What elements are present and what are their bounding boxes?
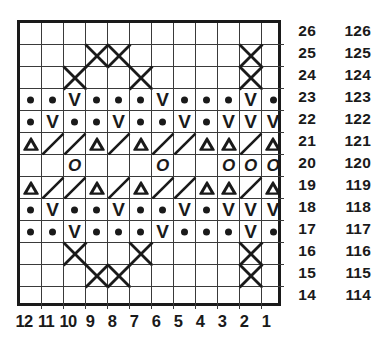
grid-cell-r19-c5	[174, 177, 196, 199]
row-number-pair: 25125	[286, 42, 381, 64]
cell-symbol-dot	[86, 221, 107, 242]
grid-cell-r14-c8	[108, 287, 130, 309]
purl-dot-icon	[49, 229, 56, 236]
cell-symbol-vee: V	[174, 111, 195, 132]
cell-symbol-dot	[262, 89, 284, 110]
yarn-over-o-icon: O	[266, 157, 279, 174]
grid-cell-r20-c3: O	[218, 155, 240, 177]
grid-cell-r14-c7	[130, 287, 152, 309]
grid-cell-r19-c9	[86, 177, 108, 199]
grid-cell-r25-c10	[64, 45, 86, 67]
cell-symbol-triangle	[20, 133, 41, 154]
row-number-pair: 15115	[286, 262, 381, 284]
cell-symbol-x	[64, 243, 85, 264]
grid-cell-r21-c3	[218, 133, 240, 155]
grid-cell-r21-c2	[240, 133, 262, 155]
row-number-primary: 26	[286, 22, 316, 40]
row-number-pair: 24124	[286, 64, 381, 86]
grid-cell-r23-c7	[130, 89, 152, 111]
grid-cell-r16-c3	[218, 243, 240, 265]
purl-dot-icon	[71, 207, 78, 214]
right-slant-line-icon	[174, 177, 196, 199]
row-number-secondary: 123	[325, 88, 371, 106]
grid-cell-r26-c1	[262, 23, 284, 45]
grid-cell-r24-c9	[86, 67, 108, 89]
slip-stitch-v-icon: V	[244, 90, 257, 109]
decrease-triangle-icon	[221, 137, 237, 151]
grid-cell-r15-c1	[262, 265, 284, 287]
cell-symbol-slash	[174, 133, 195, 154]
row-number-secondary: 124	[325, 66, 371, 84]
decrease-triangle-icon	[265, 181, 281, 195]
grid-cell-r25-c12	[20, 45, 42, 67]
grid-cell-r21-c5	[174, 133, 196, 155]
cell-symbol-x	[240, 67, 261, 88]
purl-dot-icon	[181, 229, 188, 236]
purl-dot-icon	[115, 97, 122, 104]
cell-symbol-x	[130, 243, 151, 264]
grid-cell-r17-c12	[20, 221, 42, 243]
grid-cell-r19-c1	[262, 177, 284, 199]
purl-dot-icon	[203, 229, 210, 236]
cell-symbol-dot	[218, 89, 239, 110]
decrease-triangle-icon	[199, 137, 215, 151]
grid-cell-r19-c2	[240, 177, 262, 199]
row-number-primary: 15	[286, 264, 316, 282]
grid-cell-r22-c3: V	[218, 111, 240, 133]
grid-cell-r26-c5	[174, 23, 196, 45]
grid-cell-r17-c6: V	[152, 221, 174, 243]
decrease-triangle-icon	[23, 137, 39, 151]
row-number-primary: 23	[286, 88, 316, 106]
yarn-over-o-icon: O	[156, 157, 169, 174]
grid-cell-r16-c8	[108, 243, 130, 265]
grid-cell-r19-c12	[20, 177, 42, 199]
cell-symbol-triangle	[262, 133, 284, 154]
cell-symbol-slash	[152, 133, 173, 154]
grid-cell-r22-c4	[196, 111, 218, 133]
grid-cell-r16-c10	[64, 243, 86, 265]
cell-symbol-x	[240, 265, 261, 286]
cable-cross-x-icon	[130, 67, 152, 89]
grid-cell-r14-c6	[152, 287, 174, 309]
cell-symbol-dot	[86, 89, 107, 110]
cell-symbol-triangle	[218, 177, 239, 198]
cell-symbol-dot	[262, 221, 284, 242]
grid-cell-r21-c12	[20, 133, 42, 155]
grid-cell-r23-c3	[218, 89, 240, 111]
grid-cell-r17-c8	[108, 221, 130, 243]
grid-cell-r24-c2	[240, 67, 262, 89]
cell-symbol-dot	[174, 89, 195, 110]
column-number-7: 7	[123, 312, 145, 331]
right-slant-line-icon	[240, 133, 262, 155]
row-number-pair: 18118	[286, 196, 381, 218]
grid-cell-r20-c6: O	[152, 155, 174, 177]
grid-cell-r17-c4	[196, 221, 218, 243]
grid-cell-r22-c6	[152, 111, 174, 133]
grid-cell-r14-c11	[42, 287, 64, 309]
cell-symbol-vee: V	[240, 199, 261, 220]
grid-cell-r23-c12	[20, 89, 42, 111]
grid-cell-r24-c10	[64, 67, 86, 89]
cell-symbol-o: O	[240, 155, 261, 176]
row-number-columns: 2612625125241242312322122211212012019119…	[286, 20, 381, 306]
grid-cell-r20-c12	[20, 155, 42, 177]
cell-symbol-vee: V	[108, 199, 129, 220]
slip-stitch-v-icon: V	[68, 90, 81, 109]
column-number-11: 11	[35, 312, 57, 331]
slip-stitch-v-icon: V	[156, 222, 169, 241]
grid-cell-r14-c4	[196, 287, 218, 309]
grid-cell-r19-c4	[196, 177, 218, 199]
cell-symbol-x	[108, 45, 129, 66]
right-slant-line-icon	[152, 133, 174, 155]
cell-symbol-vee: V	[218, 199, 239, 220]
grid-cell-r19-c7	[130, 177, 152, 199]
grid-cell-r22-c7	[130, 111, 152, 133]
grid-cell-r22-c11: V	[42, 111, 64, 133]
row-number-secondary: 120	[325, 154, 371, 172]
purl-dot-icon	[270, 229, 277, 236]
decrease-triangle-icon	[23, 181, 39, 195]
grid-cell-r15-c7	[130, 265, 152, 287]
cable-cross-x-icon	[108, 265, 130, 287]
cell-symbol-x	[86, 45, 107, 66]
grid-cell-r25-c1	[262, 45, 284, 67]
